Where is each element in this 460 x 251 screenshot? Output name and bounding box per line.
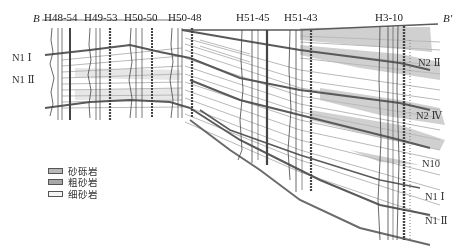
layer-label-n1-ii-left: N1 Ⅱ	[12, 74, 35, 85]
well-label-h48-54: H48-54	[44, 12, 78, 23]
well-label-h50-50: H50-50	[124, 12, 158, 23]
legend-item-fine-sandstone: 细砂岩	[48, 188, 98, 200]
well-label-h51-45: H51-45	[236, 12, 270, 23]
well-label-h3-10: H3-10	[375, 12, 403, 23]
legend-swatch-fine-sandstone	[48, 191, 63, 197]
well-label-h51-43: H51-43	[284, 12, 318, 23]
layer-label-n2-iv: N2 Ⅳ	[416, 110, 442, 121]
section-start-label: B	[33, 12, 40, 24]
legend-label: 细砂岩	[68, 187, 98, 201]
layer-label-n10: N10	[422, 158, 440, 169]
layer-label-n2-ii: N2 Ⅱ	[418, 57, 441, 68]
well-label-h49-53: H49-53	[84, 12, 118, 23]
well-label-h50-48: H50-48	[168, 12, 202, 23]
layer-label-n1-ii-right: N1 Ⅱ	[425, 215, 448, 226]
cross-section-graphics	[0, 0, 460, 251]
legend-swatch-conglomerate	[48, 168, 63, 174]
legend-swatch-coarse-sandstone	[48, 179, 63, 185]
section-end-label: B′	[443, 12, 452, 24]
layer-label-n1-i-left: N1 Ⅰ	[12, 52, 32, 63]
legend: 砂砾岩 粗砂岩 细砂岩	[48, 165, 98, 200]
layer-label-n1-i-right: N1 Ⅰ	[425, 191, 445, 202]
cross-section-diagram: B B′ H48-54 H49-53 H50-50 H50-48 H51-45 …	[0, 0, 460, 251]
